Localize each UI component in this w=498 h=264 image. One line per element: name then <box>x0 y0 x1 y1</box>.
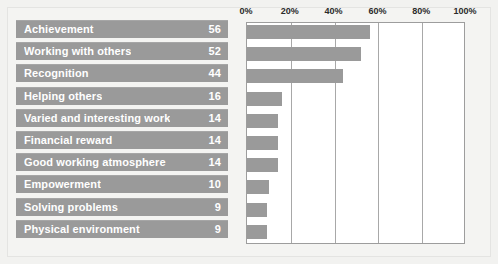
category-label-text: Good working atmosphere <box>24 156 166 168</box>
x-tick-label: 80% <box>412 6 430 16</box>
category-label-text: Working with others <box>24 45 131 57</box>
category-value-text: 9 <box>209 223 221 235</box>
category-value-text: 56 <box>203 23 221 35</box>
bar <box>247 114 278 128</box>
x-tick-label: 40% <box>325 6 343 16</box>
bar <box>247 25 370 39</box>
bar <box>247 69 343 83</box>
category-label-text: Financial reward <box>24 134 112 146</box>
category-value-text: 44 <box>203 67 221 79</box>
category-label-row: Physical environment9 <box>16 220 228 238</box>
category-value-text: 10 <box>203 178 221 190</box>
x-tick-label: 20% <box>281 6 299 16</box>
category-value-text: 14 <box>203 112 221 124</box>
category-label-row: Solving problems9 <box>16 198 228 216</box>
gridline <box>378 23 379 243</box>
category-label-text: Helping others <box>24 90 102 102</box>
category-label-text: Empowerment <box>24 178 101 190</box>
x-tick-label: 60% <box>368 6 386 16</box>
bar <box>247 92 282 106</box>
plot-area <box>246 22 465 244</box>
category-value-text: 14 <box>203 134 221 146</box>
category-label-text: Physical environment <box>24 223 140 235</box>
bar <box>247 180 269 194</box>
category-label-row: Recognition44 <box>16 64 228 82</box>
category-label-row: Empowerment10 <box>16 175 228 193</box>
category-label-text: Achievement <box>24 23 94 35</box>
category-value-text: 14 <box>203 156 221 168</box>
category-label-text: Recognition <box>24 67 89 79</box>
x-tick-label: 0% <box>239 6 252 16</box>
gridline <box>422 23 423 243</box>
category-value-text: 52 <box>203 45 221 57</box>
category-value-text: 16 <box>203 90 221 102</box>
category-label-text: Solving problems <box>24 201 118 213</box>
category-label-row: Financial reward14 <box>16 131 228 149</box>
category-label-column: Achievement56Working with others52Recogn… <box>16 20 228 244</box>
chart-figure: 0%20%40%60%80%100% Achievement56Working … <box>0 0 498 264</box>
bar <box>247 203 267 217</box>
category-label-row: Helping others16 <box>16 87 228 105</box>
bar <box>247 225 267 239</box>
bar <box>247 136 278 150</box>
category-label-row: Good working atmosphere14 <box>16 153 228 171</box>
x-axis-tick-labels: 0%20%40%60%80%100% <box>246 6 465 20</box>
bar <box>247 158 278 172</box>
category-label-row: Working with others52 <box>16 42 228 60</box>
x-tick-label: 100% <box>453 6 476 16</box>
category-value-text: 9 <box>209 201 221 213</box>
category-label-row: Achievement56 <box>16 20 228 38</box>
bar <box>247 47 361 61</box>
category-label-row: Varied and interesting work14 <box>16 109 228 127</box>
category-label-text: Varied and interesting work <box>24 112 170 124</box>
